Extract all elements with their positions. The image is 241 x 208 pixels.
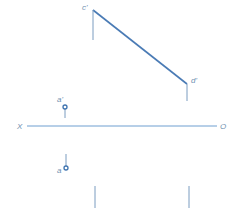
point-a-prime [63, 105, 67, 109]
label-c-prime: c' [82, 3, 88, 12]
label-a: a [57, 166, 62, 175]
segment-c-prime-d-prime [93, 10, 187, 84]
point-a [64, 166, 68, 170]
label-d-prime: d' [191, 76, 197, 85]
label-o: O [220, 122, 226, 131]
projection-diagram: c' d' a' a X O [0, 0, 241, 208]
label-a-prime: a' [57, 95, 63, 104]
label-x: X [16, 122, 23, 131]
